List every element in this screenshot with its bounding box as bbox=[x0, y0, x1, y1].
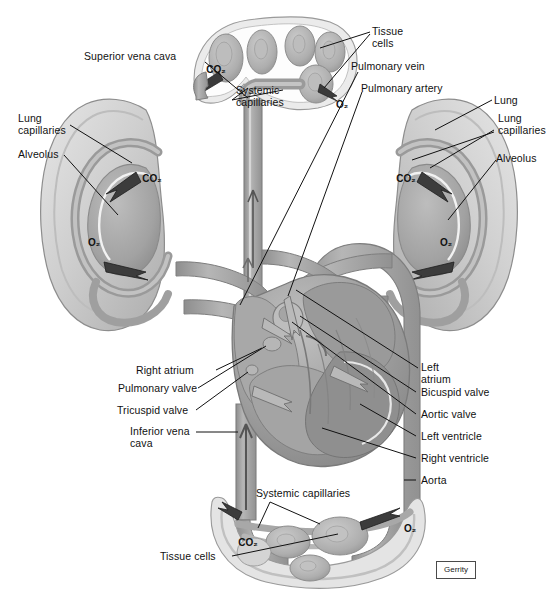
label-right-ventricle: Right ventricle bbox=[421, 452, 489, 464]
gas-label-o2-right-lung: O₂ bbox=[440, 237, 452, 248]
label-systemic-capillaries-top: Systemic capillaries bbox=[236, 84, 284, 108]
label-pulmonary-valve: Pulmonary valve bbox=[118, 382, 197, 394]
label-tissue-cells-top: Tissue cells bbox=[372, 25, 403, 49]
label-aortic-valve: Aortic valve bbox=[421, 408, 476, 420]
label-inferior-vena-cava: Inferior vena cava bbox=[130, 425, 190, 449]
gas-label-co2-right-lung: CO₂ bbox=[396, 173, 415, 184]
pulmonary-valve-shape bbox=[263, 337, 281, 351]
label-systemic-capillaries-bottom: Systemic capillaries bbox=[256, 487, 350, 499]
gas-label-co2-left-lung: CO₂ bbox=[142, 173, 161, 184]
gas-label-co2-lower: CO₂ bbox=[238, 537, 257, 548]
label-aorta: Aorta bbox=[421, 474, 447, 486]
label-superior-vena-cava: Superior vena cava bbox=[84, 50, 176, 62]
label-alveolus-left: Alveolus bbox=[18, 148, 59, 160]
gas-label-o2-left-lung: O₂ bbox=[88, 237, 100, 248]
label-lung-right: Lung bbox=[494, 94, 518, 106]
label-right-atrium: Right atrium bbox=[136, 364, 194, 376]
gas-label-o2-lower: O₂ bbox=[404, 523, 416, 534]
label-lung-capillaries-right: Lung capillaries bbox=[498, 112, 546, 136]
figure-canvas: CO₂ O₂ CO₂ O₂ bbox=[0, 0, 558, 608]
label-left-atrium: Left atrium bbox=[421, 361, 451, 385]
label-left-ventricle: Left ventricle bbox=[421, 430, 482, 442]
label-tricuspid-valve: Tricuspid valve bbox=[117, 404, 188, 416]
tricuspid-valve-shape bbox=[246, 365, 258, 375]
label-alveolus-right: Alveolus bbox=[496, 152, 537, 164]
label-bicuspid-valve: Bicuspid valve bbox=[421, 386, 490, 398]
label-pulmonary-vein: Pulmonary vein bbox=[351, 60, 425, 72]
artist-signature: Gerrity bbox=[436, 561, 476, 579]
label-lung-capillaries-left: Lung capillaries bbox=[18, 112, 66, 136]
label-tissue-cells-bottom: Tissue cells bbox=[160, 550, 216, 562]
label-pulmonary-artery: Pulmonary artery bbox=[361, 82, 443, 94]
